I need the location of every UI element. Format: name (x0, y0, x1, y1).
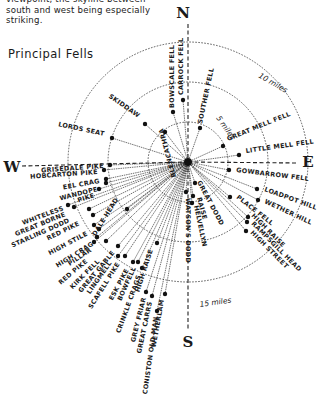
fell-marker (184, 190, 188, 194)
fells-radial-diagram: CARROCK FELLBOWSCALE FELLSOUTHER FELLBLE… (0, 0, 322, 400)
viewpoint-marker (184, 158, 192, 166)
fell-marker (123, 254, 127, 258)
fell-marker (72, 205, 76, 209)
compass-south: S (183, 333, 194, 351)
sight-line (138, 162, 188, 262)
fell-label: BOWSCALE FELL (168, 45, 176, 108)
fell-label: DALE HEAD (90, 196, 120, 237)
fell-label: SKIDDAW (107, 92, 141, 119)
sight-line (188, 155, 239, 162)
compass-west: W (3, 158, 22, 176)
sight-line (112, 138, 188, 162)
fell-label: SOUTHER FELL (196, 67, 216, 124)
fell-label: GREAT MELL FELL (226, 110, 292, 143)
ring-label-10: 10 miles (257, 71, 289, 95)
fell-marker (244, 229, 248, 233)
sight-line (152, 162, 188, 296)
fell-marker (256, 198, 260, 202)
fell-marker (181, 98, 185, 102)
fell-marker (116, 244, 120, 248)
fell-marker (228, 195, 232, 199)
fell-label: WATSON'S DODD (184, 198, 192, 263)
fell-marker (171, 110, 175, 114)
fell-marker (91, 213, 95, 217)
fell-marker (131, 260, 135, 264)
fell-marker (144, 290, 148, 294)
fell-label: GOWBARROW FELL (236, 166, 310, 183)
fell-label: CARROCK FELL (177, 38, 185, 95)
fell-label: LORDS SEAT (58, 120, 106, 138)
fell-marker (104, 177, 108, 181)
compass-east: E (302, 153, 313, 171)
fell-marker (150, 294, 154, 298)
ring-label-15: 15 miles (199, 296, 232, 309)
fell-marker (155, 241, 159, 245)
fell-marker (221, 144, 225, 148)
sight-line (188, 128, 200, 162)
sight-line (188, 146, 223, 162)
fell-marker (66, 203, 70, 207)
fell-marker (245, 220, 249, 224)
fell-marker (227, 168, 231, 172)
fell-marker (87, 207, 91, 211)
compass-north: N (176, 4, 190, 22)
fell-marker (125, 207, 129, 211)
fell-marker (163, 292, 167, 296)
fell-marker (237, 153, 241, 157)
fell-marker (198, 126, 202, 130)
axis-line (188, 162, 298, 163)
fell-labels: CARROCK FELLBOWSCALE FELLSOUTHER FELLBLE… (10, 38, 318, 395)
fell-marker (104, 181, 108, 185)
fell-marker (104, 239, 108, 243)
fell-marker (116, 254, 120, 258)
sight-line (133, 162, 188, 262)
fell-marker (136, 260, 140, 264)
fell-marker (255, 187, 259, 191)
fell-label: BLENCATHRA (157, 127, 178, 178)
fell-marker (108, 163, 112, 167)
fell-label: RAMPSGILL HEAD (250, 220, 304, 274)
fell-marker (143, 122, 147, 126)
fell-marker (110, 136, 114, 140)
